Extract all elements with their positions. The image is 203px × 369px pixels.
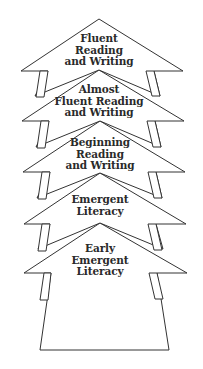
stage-label-fluent-reading: Fluent Reading and Writing [49, 33, 149, 68]
stage-label-early-emergent-literacy: Early Emergent Literacy [50, 243, 150, 278]
stage-label-emergent-literacy: Emergent Literacy [50, 194, 150, 217]
stage-label-almost-fluent: Almost Fluent Reading and Writing [49, 84, 149, 119]
left-tab [38, 224, 50, 251]
left-tab [38, 172, 50, 199]
stage-label-beginning-reading: Beginning Reading and Writing [50, 137, 150, 172]
left-tab [36, 71, 48, 97]
left-tab [37, 121, 49, 148]
